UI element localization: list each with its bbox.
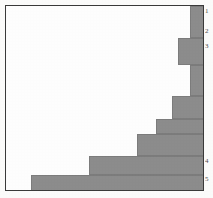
bar-6	[137, 134, 204, 156]
bars-layer	[6, 6, 203, 190]
tick-label-2: 2	[205, 28, 209, 35]
tick-label-5: 5	[205, 176, 209, 183]
bar-8	[31, 175, 204, 191]
right-axis-tick-labels: 12345	[205, 0, 213, 198]
bar-5	[156, 119, 204, 134]
bar-2	[178, 38, 204, 65]
tick-label-1: 1	[205, 8, 209, 15]
tick-label-4: 4	[205, 158, 209, 165]
bar-3	[190, 65, 204, 96]
bar-7	[89, 156, 204, 175]
bar-1	[190, 6, 204, 38]
bar-4	[172, 96, 204, 119]
tick-label-3: 3	[205, 43, 209, 50]
plot-frame	[5, 5, 204, 191]
chart-figure: 12345	[0, 0, 213, 198]
